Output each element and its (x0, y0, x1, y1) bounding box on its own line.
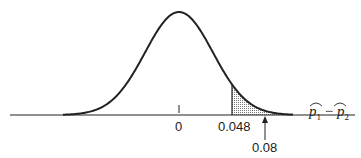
tick-label-zero: 0 (175, 119, 182, 134)
arrow-up-icon (262, 116, 268, 123)
observed-value-label: 0.08 (252, 140, 277, 155)
tick-label-critical: 0.048 (218, 119, 251, 134)
normal-curve-chart (0, 0, 361, 158)
normal-curve (63, 12, 293, 115)
x-axis-label: p1 − p2 (309, 103, 349, 122)
